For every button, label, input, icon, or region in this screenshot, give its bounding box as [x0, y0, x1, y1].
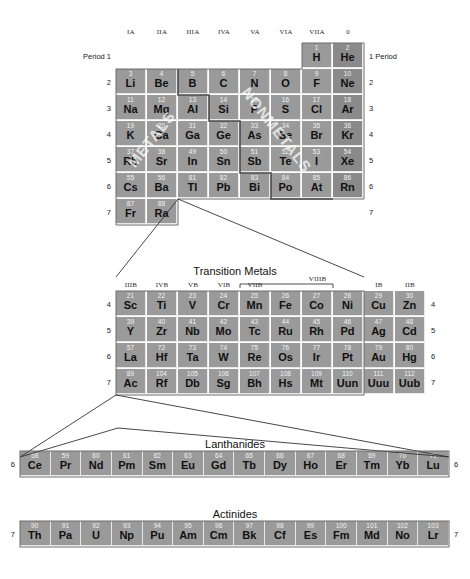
element-cell-zr[interactable]: 40Zr	[147, 317, 177, 342]
element-cell-ba[interactable]: 56Ba	[147, 173, 177, 198]
element-cell-sg[interactable]: 106Sg	[209, 369, 239, 394]
element-cell-ar[interactable]: 18Ar	[333, 95, 363, 120]
element-cell-kr[interactable]: 36Kr	[333, 121, 363, 146]
element-cell-lu[interactable]: 71Lu	[418, 451, 449, 476]
element-cell-w[interactable]: 74W	[209, 343, 239, 368]
element-cell-ac[interactable]: 89Ac	[116, 369, 146, 394]
element-cell-li[interactable]: 3Li	[116, 69, 146, 94]
element-cell-in[interactable]: 49In	[178, 147, 208, 172]
element-cell-ta[interactable]: 73Ta	[178, 343, 208, 368]
element-cell-at[interactable]: 85At	[302, 173, 332, 198]
element-cell-si[interactable]: 14Si	[209, 95, 239, 120]
element-cell-pr[interactable]: 59Pr	[51, 451, 82, 476]
element-cell-es[interactable]: 99Es	[296, 521, 327, 546]
element-cell-co[interactable]: 27Co	[302, 291, 332, 316]
element-cell-rh[interactable]: 45Rh	[302, 317, 332, 342]
element-cell-xe[interactable]: 54Xe	[333, 147, 363, 172]
element-cell-rf[interactable]: 104Rf	[147, 369, 177, 394]
element-cell-cu[interactable]: 29Cu	[364, 291, 394, 316]
element-cell-rb[interactable]: 37Rb	[116, 147, 146, 172]
element-cell-lr[interactable]: 103Lr	[418, 521, 449, 546]
element-cell-na[interactable]: 11Na	[116, 95, 146, 120]
element-cell-ho[interactable]: 67Ho	[296, 451, 327, 476]
element-cell-hf[interactable]: 72Hf	[147, 343, 177, 368]
element-cell-f[interactable]: 9F	[302, 69, 332, 94]
element-cell-bk[interactable]: 97Bk	[234, 521, 265, 546]
element-cell-sc[interactable]: 21Sc	[116, 291, 146, 316]
element-cell-cr[interactable]: 24Cr	[209, 291, 239, 316]
element-cell-i[interactable]: 53I	[302, 147, 332, 172]
element-cell-pt[interactable]: 78Pt	[333, 343, 363, 368]
element-cell-hs[interactable]: 108Hs	[271, 369, 301, 394]
element-cell-cm[interactable]: 96Cm	[204, 521, 235, 546]
element-cell-fe[interactable]: 26Fe	[271, 291, 301, 316]
element-cell-rn[interactable]: 86Rn	[333, 173, 363, 198]
element-cell-zn[interactable]: 30Zn	[395, 291, 425, 316]
element-cell-v[interactable]: 23V	[178, 291, 208, 316]
element-cell-c[interactable]: 6C	[209, 69, 239, 94]
element-cell-er[interactable]: 68Er	[326, 451, 357, 476]
element-cell-sr[interactable]: 38Sr	[147, 147, 177, 172]
element-cell-ag[interactable]: 47Ag	[364, 317, 394, 342]
element-cell-o[interactable]: 8O	[271, 69, 301, 94]
element-cell-yb[interactable]: 70Yb	[388, 451, 419, 476]
element-cell-np[interactable]: 93Np	[112, 521, 143, 546]
element-cell-fm[interactable]: 100Fm	[326, 521, 357, 546]
element-cell-gd[interactable]: 64Gd	[204, 451, 235, 476]
element-cell-ca[interactable]: 20Ca	[147, 121, 177, 146]
element-cell-s[interactable]: 16S	[271, 95, 301, 120]
element-cell-mn[interactable]: 25Mn	[240, 291, 270, 316]
element-cell-nd[interactable]: 60Nd	[81, 451, 112, 476]
element-cell-la[interactable]: 57La	[116, 343, 146, 368]
element-cell-te[interactable]: 52Te	[271, 147, 301, 172]
element-cell-sn[interactable]: 50Sn	[209, 147, 239, 172]
element-cell-ir[interactable]: 77Ir	[302, 343, 332, 368]
element-cell-n[interactable]: 7N	[240, 69, 270, 94]
element-cell-he[interactable]: 2He	[333, 43, 363, 68]
element-cell-th[interactable]: 90Th	[20, 521, 51, 546]
element-cell-y[interactable]: 39Y	[116, 317, 146, 342]
element-cell-ne[interactable]: 10Ne	[333, 69, 363, 94]
element-cell-uuu[interactable]: 111Uuu	[364, 369, 394, 394]
element-cell-dy[interactable]: 66Dy	[265, 451, 296, 476]
element-cell-ni[interactable]: 28Ni	[333, 291, 363, 316]
element-cell-mo[interactable]: 42Mo	[209, 317, 239, 342]
element-cell-os[interactable]: 76Os	[271, 343, 301, 368]
element-cell-db[interactable]: 105Db	[178, 369, 208, 394]
element-cell-hg[interactable]: 80Hg	[395, 343, 425, 368]
element-cell-as[interactable]: 33As	[240, 121, 270, 146]
element-cell-br[interactable]: 35Br	[302, 121, 332, 146]
element-cell-be[interactable]: 4Be	[147, 69, 177, 94]
element-cell-cf[interactable]: 98Cf	[265, 521, 296, 546]
element-cell-au[interactable]: 79Au	[364, 343, 394, 368]
element-cell-eu[interactable]: 63Eu	[173, 451, 204, 476]
element-cell-pa[interactable]: 91Pa	[51, 521, 82, 546]
element-cell-no[interactable]: 102No	[388, 521, 419, 546]
element-cell-nb[interactable]: 41Nb	[178, 317, 208, 342]
element-cell-mt[interactable]: 109Mt	[302, 369, 332, 394]
element-cell-k[interactable]: 19K	[116, 121, 146, 146]
element-cell-tl[interactable]: 81Tl	[178, 173, 208, 198]
element-cell-pu[interactable]: 94Pu	[143, 521, 174, 546]
element-cell-sb[interactable]: 51Sb	[240, 147, 270, 172]
element-cell-cl[interactable]: 17Cl	[302, 95, 332, 120]
element-cell-ce[interactable]: 58Ce	[20, 451, 51, 476]
element-cell-cs[interactable]: 55Cs	[116, 173, 146, 198]
element-cell-ge[interactable]: 32Ge	[209, 121, 239, 146]
element-cell-tb[interactable]: 65Tb	[234, 451, 265, 476]
element-cell-al[interactable]: 13Al	[178, 95, 208, 120]
element-cell-cd[interactable]: 48Cd	[395, 317, 425, 342]
element-cell-fr[interactable]: 87Fr	[116, 199, 146, 224]
element-cell-pm[interactable]: 61Pm	[112, 451, 143, 476]
element-cell-se[interactable]: 34Se	[271, 121, 301, 146]
element-cell-p[interactable]: 15P	[240, 95, 270, 120]
element-cell-uun[interactable]: 110Uun	[333, 369, 363, 394]
element-cell-h[interactable]: 1H	[302, 43, 332, 68]
element-cell-tc[interactable]: 43Tc	[240, 317, 270, 342]
element-cell-re[interactable]: 75Re	[240, 343, 270, 368]
element-cell-sm[interactable]: 62Sm	[143, 451, 174, 476]
element-cell-b[interactable]: 5B	[178, 69, 208, 94]
element-cell-ru[interactable]: 44Ru	[271, 317, 301, 342]
element-cell-bh[interactable]: 107Bh	[240, 369, 270, 394]
element-cell-ti[interactable]: 22Ti	[147, 291, 177, 316]
